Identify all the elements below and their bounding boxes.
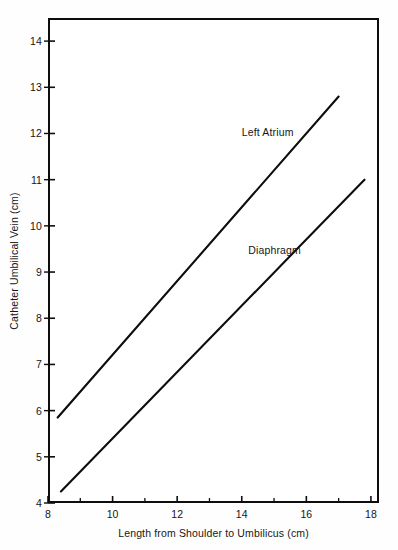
y-tick-label: 12 (30, 128, 42, 139)
y-tick-label: 10 (30, 221, 42, 232)
series-line (58, 97, 339, 418)
axis-tick-marks (44, 41, 371, 503)
y-tick-label: 7 (36, 359, 42, 370)
y-tick-label: 13 (30, 82, 42, 93)
y-tick-label: 5 (36, 452, 42, 463)
x-tick-label: 10 (93, 508, 133, 520)
x-tick-label: 18 (351, 508, 391, 520)
x-tick-label: 16 (286, 508, 326, 520)
y-tick-label: 14 (30, 36, 42, 47)
y-tick-label: 9 (36, 267, 42, 278)
chart-figure: 4567891011121314 Catheter Umbilical Vein… (0, 0, 398, 550)
y-tick-label: 6 (36, 406, 42, 417)
series-label-diaphragm: Diaphragm (248, 245, 301, 256)
x-axis-tick-labels: 81012141618 (0, 508, 398, 524)
series-label-left-atrium: Left Atrium (242, 127, 294, 138)
plot-canvas (48, 18, 379, 503)
x-tick-label: 8 (28, 508, 68, 520)
series-line (61, 180, 365, 492)
x-tick-label: 12 (157, 508, 197, 520)
x-axis-title: Length from Shoulder to Umbilicus (cm) (48, 527, 379, 539)
y-axis-title: Catheter Umbilical Vein (cm) (8, 161, 20, 361)
y-axis-tick-labels: 4567891011121314 (0, 0, 42, 550)
x-tick-label: 14 (222, 508, 262, 520)
y-tick-label: 4 (36, 498, 42, 509)
y-tick-label: 11 (31, 175, 42, 186)
series-lines-group (58, 97, 365, 492)
y-tick-label: 8 (36, 313, 42, 324)
